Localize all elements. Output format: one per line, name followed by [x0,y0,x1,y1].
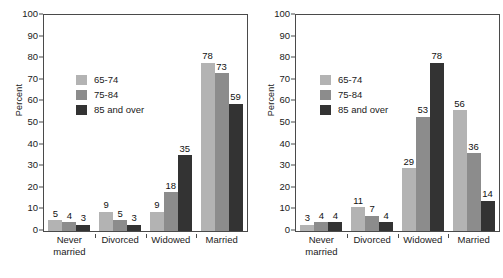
legend-women: 65-7475-8485 and over [320,72,388,117]
bar-slot: 29 [402,15,416,231]
legend-men: 65-7475-8485 and over [76,72,144,117]
x-tick-label: Married [458,234,490,246]
legend-swatch-icon [76,75,87,85]
y-tick-label: 30 [254,160,290,170]
bar-slot: 4 [379,15,393,231]
bar-value-label: 78 [432,51,443,61]
y-tick-label: 60 [254,96,290,106]
x-axis-ticks-women: NevermarriedDivorcedWidowedMarried [296,234,499,274]
marital-status-by-age-chart: Men Percent 0102030405060708090100 54395… [0,0,503,278]
plot-area-men: 54395391835787359 [44,15,247,231]
bar-slot: 5 [113,15,127,231]
bar-value-label: 3 [81,213,86,223]
bar-value-label: 29 [404,157,415,167]
x-tick-mark [448,234,449,238]
y-tick-label: 50 [2,117,38,127]
y-tick-label: 40 [254,139,290,149]
bar-value-label: 7 [369,204,374,214]
bar-value-label: 14 [482,189,493,199]
bar-slot: 53 [416,15,430,231]
bar-value-label: 11 [353,196,363,206]
bar-slot: 3 [300,15,314,231]
bar-group: 344 [296,15,347,231]
y-axis-ticks-women: 0102030405060708090100 [252,14,295,232]
bar [416,117,430,231]
x-axis-ticks-men: NevermarriedDivorcedWidowedMarried [44,234,247,274]
y-tick-label: 30 [2,160,38,170]
x-tick-label: Divorced [353,234,391,246]
bar-slot: 56 [453,15,467,231]
bar [113,220,127,231]
x-tick-label-line: Never [305,234,337,246]
bar-value-label: 5 [117,209,122,219]
chart-panel-men: Men Percent 0102030405060708090100 54395… [0,0,251,278]
bar-value-label: 78 [202,51,213,61]
bar-group: 953 [95,15,146,231]
bar-slot: 3 [76,15,90,231]
bar [201,63,215,231]
bar [351,207,365,231]
legend-label: 75-84 [338,90,362,100]
x-tick-mark [398,234,399,238]
x-tick-label: Divorced [101,234,139,246]
bar [76,225,90,231]
legend-swatch-icon [320,75,331,85]
bar [127,225,141,231]
y-tick-label: 0 [2,225,38,235]
bar-value-label: 4 [383,211,388,221]
bar [48,220,62,231]
bar-value-label: 3 [305,213,310,223]
x-tick-label-line: Married [206,234,238,246]
bar-slot: 4 [62,15,76,231]
y-tick-label: 20 [2,182,38,192]
bar-value-label: 4 [67,211,72,221]
legend-swatch-icon [320,90,331,100]
y-tick-label: 40 [2,139,38,149]
y-tick-label: 90 [2,31,38,41]
bar-slot: 4 [314,15,328,231]
x-tick-label: Widowed [151,234,190,246]
bar-value-label: 4 [319,211,324,221]
bar [300,225,314,231]
bar-slot: 18 [164,15,178,231]
y-tick-label: 100 [254,9,290,19]
bar-group: 563614 [448,15,499,231]
bar-slot: 36 [467,15,481,231]
x-tick-mark [347,234,348,238]
bar [164,192,178,231]
legend-label: 85 and over [338,105,388,115]
legend-item: 75-84 [76,87,144,102]
bar-slot: 4 [328,15,342,231]
bar-value-label: 59 [230,92,241,102]
x-tick-label-line: Widowed [403,234,442,246]
x-tick-label-line: Widowed [151,234,190,246]
legend-item: 65-74 [320,72,388,87]
x-tick-label: Nevermarried [305,234,337,257]
legend-item: 85 and over [76,102,144,117]
bar-value-label: 3 [131,213,136,223]
bar-value-label: 9 [154,200,159,210]
bar-value-label: 35 [180,144,191,154]
bar-slot: 78 [430,15,444,231]
bar [379,222,393,231]
bar-value-label: 56 [454,99,465,109]
x-tick-label-line: Never [53,234,85,246]
bar [430,63,444,231]
x-tick-label: Married [206,234,238,246]
bar [314,222,328,231]
legend-label: 85 and over [94,105,144,115]
chart-panel-women: Women Percent 0102030405060708090100 344… [252,0,503,278]
bar [365,216,379,231]
bar [467,153,481,231]
bar-value-label: 36 [468,142,479,152]
legend-swatch-icon [76,90,87,100]
y-tick-label: 20 [254,182,290,192]
x-tick-label-line: Married [458,234,490,246]
legend-swatch-icon [76,105,87,115]
x-tick-label-line: married [305,246,337,258]
bar [453,110,467,231]
bar [99,212,113,231]
y-tick-label: 0 [254,225,290,235]
legend-item: 65-74 [76,72,144,87]
y-tick-label: 70 [2,74,38,84]
